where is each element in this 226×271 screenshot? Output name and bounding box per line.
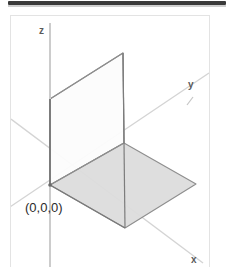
y-axis-tick-mark <box>187 97 193 105</box>
toolbar-shadow <box>8 5 226 7</box>
x-axis-label: x <box>191 254 197 265</box>
z-axis-label: z <box>39 25 44 36</box>
diagram-frame: z y x (0,0,0) <box>10 15 210 267</box>
coordinate-system-diagram: z y x (0,0,0) <box>10 15 210 267</box>
cropped-toolbar-strip <box>0 0 226 9</box>
figure-canvas-root: z y x (0,0,0) <box>0 0 226 271</box>
y-axis-label: y <box>188 79 194 90</box>
origin-point <box>48 183 52 187</box>
origin-label: (0,0,0) <box>25 200 63 215</box>
